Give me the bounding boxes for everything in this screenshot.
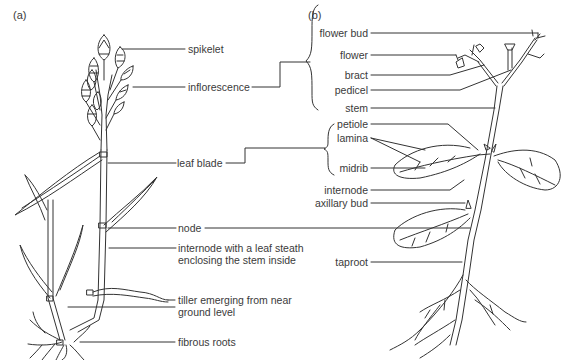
label-pedicel: pedicel (335, 84, 368, 96)
spikelets (82, 35, 134, 140)
label-flower: flower (340, 49, 368, 61)
label-midrib: midrib (339, 162, 368, 174)
brace-leaf-parts (324, 124, 334, 175)
label-taproot: taproot (335, 256, 368, 268)
label-tiller-line1: tiller emerging from near (178, 294, 292, 306)
lamina-left-upper (394, 145, 480, 178)
label-spikelet: spikelet (188, 43, 224, 55)
label-stem: stem (345, 102, 368, 114)
label-fibrous-roots: fibrous roots (178, 336, 236, 348)
label-flower-bud: flower bud (320, 27, 368, 39)
label-petiole: petiole (337, 118, 368, 130)
label-inflorescence: inflorescence (188, 81, 250, 93)
label-node: node (178, 222, 201, 234)
label-internode-line1: internode with a leaf steath (178, 242, 304, 254)
label-leaf-blade: leaf blade (177, 157, 223, 169)
dicot-plant-illustration (390, 30, 560, 358)
label-bract: bract (345, 69, 368, 81)
grass-plant-illustration (15, 35, 168, 360)
label-lamina: lamina (337, 132, 368, 144)
label-internode-line2: enclosing the stem inside (178, 254, 296, 266)
grass-leaves (15, 152, 168, 340)
label-tiller-line2: ground level (178, 306, 235, 318)
plant-structure-diagram: (a) (b) spikelet inflorescence leaf blad… (0, 0, 573, 360)
lamina-right-upper (494, 150, 560, 190)
panel-a-tag: (a) (13, 9, 26, 21)
label-axillary-bud: axillary bud (315, 197, 368, 209)
label-internode: internode (324, 184, 368, 196)
taproot-system (390, 275, 526, 358)
diagram-artwork (0, 0, 573, 360)
panel-b-tag: (b) (308, 9, 321, 21)
